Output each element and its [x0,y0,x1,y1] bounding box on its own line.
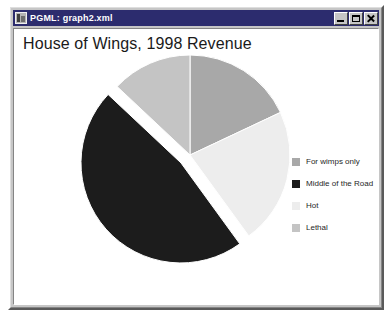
legend-label: Hot [306,201,318,211]
legend-label: For wimps only [306,157,360,167]
application-window: PGML: graph2.xml House of Wings, 1998 Re… [8,5,384,310]
legend-item[interactable]: Middle of the Road [292,173,378,195]
window-controls [334,12,378,25]
window-titlebar[interactable]: PGML: graph2.xml [13,10,379,26]
legend-swatch [292,202,300,210]
chart-legend: For wimps only Middle of the Road Hot Le… [292,151,378,239]
pie-chart: For wimps only Middle of the Road Hot Le… [14,55,379,305]
legend-swatch [292,224,300,232]
legend-item[interactable]: Hot [292,195,378,217]
document-icon [15,12,27,24]
close-button[interactable] [364,12,378,25]
chart-title: House of Wings, 1998 Revenue [23,35,252,53]
legend-item[interactable]: For wimps only [292,151,378,173]
legend-swatch [292,180,300,188]
desktop-background: PGML: graph2.xml House of Wings, 1998 Re… [0,0,392,325]
window-title: PGML: graph2.xml [30,11,330,25]
minimize-button[interactable] [334,12,348,25]
legend-label: Middle of the Road [306,179,373,189]
legend-item[interactable]: Lethal [292,217,378,239]
pie-slice-group [81,55,290,263]
document-client-area: House of Wings, 1998 Revenue For wimps o… [13,28,379,305]
maximize-button[interactable] [349,12,363,25]
legend-label: Lethal [306,223,328,233]
legend-swatch [292,158,300,166]
